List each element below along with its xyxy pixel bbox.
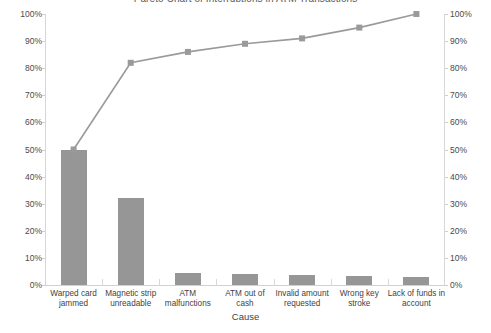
x-category-label: Magnetic stripunreadable	[99, 289, 162, 309]
y-tick-mark-right	[445, 150, 448, 151]
y-tick-label-left: 100%	[0, 10, 42, 18]
bars-layer	[45, 14, 445, 285]
y-tick-label-left: 20%	[0, 227, 42, 235]
x-category-label-line: requested	[271, 299, 334, 309]
y-tick-label-right: 50%	[450, 146, 467, 154]
bar	[175, 273, 201, 285]
x-category-label-line: Magnetic strip	[99, 289, 162, 299]
y-tick-label-left: 90%	[0, 37, 42, 45]
y-tick-mark-right	[445, 285, 448, 286]
y-tick-label-left: 0%	[0, 281, 42, 289]
y-tick-mark-right	[445, 68, 448, 69]
y-tick-mark-right	[445, 204, 448, 205]
x-category-label-line: jammed	[42, 299, 105, 309]
y-tick-label-left: 10%	[0, 254, 42, 262]
x-tick-mark	[102, 279, 103, 286]
y-tick-label-right: 30%	[450, 200, 467, 208]
y-tick-label-right: 100%	[450, 10, 472, 18]
y-tick-mark-right	[445, 231, 448, 232]
bar	[118, 198, 144, 285]
x-axis-baseline	[45, 285, 445, 286]
y-tick-label-right: 20%	[450, 227, 467, 235]
x-tick-mark	[331, 279, 332, 286]
y-tick-label-right: 60%	[450, 118, 467, 126]
x-tick-mark	[159, 279, 160, 286]
y-tick-label-left: 30%	[0, 200, 42, 208]
y-tick-mark-left	[42, 285, 45, 286]
y-tick-label-right: 80%	[450, 64, 467, 72]
y-tick-label-left: 60%	[0, 118, 42, 126]
x-category-label-line: ATM	[156, 289, 219, 299]
x-category-label-line: Invalid amount	[271, 289, 334, 299]
y-tick-label-left: 50%	[0, 146, 42, 154]
x-category-label: Invalid amountrequested	[271, 289, 334, 309]
y-tick-label-left: 80%	[0, 64, 42, 72]
x-category-label: Lack of funds inaccount	[385, 289, 448, 309]
x-category-label-line: account	[385, 299, 448, 309]
x-category-label: ATMmalfunctions	[156, 289, 219, 309]
x-category-label: Warped cardjammed	[42, 289, 105, 309]
chart-title: Pareto Chart of Interruptions in ATM Tra…	[0, 0, 491, 2]
bar	[403, 277, 429, 285]
x-tick-mark	[216, 279, 217, 286]
x-category-label-line: Warped card	[42, 289, 105, 299]
bar	[61, 150, 87, 286]
y-tick-label-left: 70%	[0, 91, 42, 99]
x-category-label-line: cash	[213, 299, 276, 309]
x-tick-mark	[274, 279, 275, 286]
x-category-label-line: Wrong key	[328, 289, 391, 299]
y-tick-label-right: 90%	[450, 37, 467, 45]
y-tick-label-left: 40%	[0, 173, 42, 181]
x-category-label-line: Lack of funds in	[385, 289, 448, 299]
y-tick-label-right: 10%	[450, 254, 467, 262]
y-tick-label-right: 40%	[450, 173, 467, 181]
bar	[232, 274, 258, 285]
x-category-label-line: ATM out of	[213, 289, 276, 299]
y-tick-mark-right	[445, 14, 448, 15]
y-tick-mark-right	[445, 95, 448, 96]
y-tick-mark-right	[445, 258, 448, 259]
x-category-label-line: stroke	[328, 299, 391, 309]
y-tick-mark-right	[445, 177, 448, 178]
pareto-chart: Pareto Chart of Interruptions in ATM Tra…	[0, 0, 491, 333]
x-category-label-line: malfunctions	[156, 299, 219, 309]
x-category-label: ATM out ofcash	[213, 289, 276, 309]
x-tick-mark	[388, 279, 389, 286]
y-tick-mark-right	[445, 41, 448, 42]
y-tick-label-right: 0%	[450, 281, 462, 289]
bar	[289, 275, 315, 285]
x-axis-title: Cause	[0, 311, 491, 322]
y-tick-mark-right	[445, 122, 448, 123]
y-tick-label-right: 70%	[450, 91, 467, 99]
bar	[346, 276, 372, 285]
x-category-label-line: unreadable	[99, 299, 162, 309]
x-category-label: Wrong keystroke	[328, 289, 391, 309]
